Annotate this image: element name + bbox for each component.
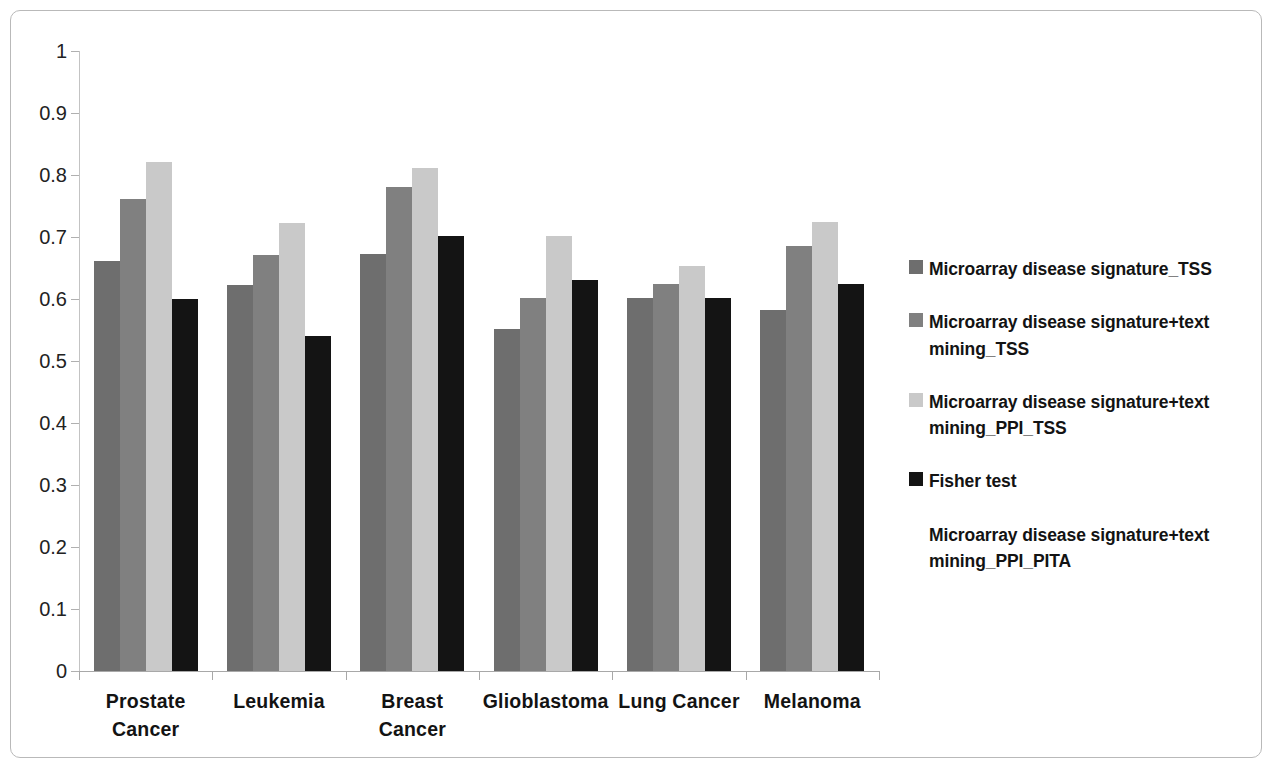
y-tick-label: 0.9 — [39, 103, 67, 123]
bar — [546, 236, 572, 671]
x-tick-mark — [746, 671, 747, 680]
bar — [572, 280, 598, 671]
y-tick-mark — [71, 609, 79, 610]
x-axis-label: Glioblastoma — [479, 687, 612, 715]
bar — [705, 298, 731, 671]
bar-group — [494, 51, 598, 671]
y-tick-mark — [71, 485, 79, 486]
y-tick-mark — [71, 175, 79, 176]
figure-frame: 00.10.20.30.40.50.60.70.80.91 Prostate C… — [10, 10, 1262, 758]
y-tick-label: 0.8 — [39, 165, 67, 185]
x-tick-mark — [212, 671, 213, 680]
bar — [412, 168, 438, 671]
legend-swatch-icon — [909, 313, 923, 327]
y-tick-label: 0.1 — [39, 599, 67, 619]
bar — [227, 285, 253, 671]
y-tick-mark — [71, 299, 79, 300]
y-tick-mark — [71, 361, 79, 362]
bar-group — [760, 51, 864, 671]
x-tick-mark — [612, 671, 613, 680]
y-tick-label: 0.6 — [39, 289, 67, 309]
bar — [838, 284, 864, 671]
y-tick-mark — [71, 51, 79, 52]
y-tick-label: 0.2 — [39, 537, 67, 557]
bar — [627, 298, 653, 671]
x-axis-label: Leukemia — [212, 687, 345, 715]
bar — [94, 261, 120, 671]
legend-swatch-icon — [909, 260, 923, 274]
chart-plot-area: 00.10.20.30.40.50.60.70.80.91 Prostate C… — [79, 51, 879, 671]
y-tick-mark — [71, 237, 79, 238]
y-tick-label: 0.4 — [39, 413, 67, 433]
legend-item[interactable]: Microarray disease signature_TSS — [909, 256, 1249, 282]
y-tick-mark — [71, 423, 79, 424]
bar-group — [627, 51, 731, 671]
bar — [653, 284, 679, 671]
legend-label: Microarray disease signature+text mining… — [929, 522, 1249, 575]
x-tick-mark — [79, 671, 80, 680]
bar — [520, 298, 546, 671]
bar-group — [227, 51, 331, 671]
bar — [172, 299, 198, 671]
bar — [120, 199, 146, 671]
legend-swatch-icon — [909, 526, 923, 540]
bar-group — [94, 51, 198, 671]
y-tick-mark — [71, 547, 79, 548]
legend-label: Fisher test — [929, 468, 1016, 494]
bar — [360, 254, 386, 671]
y-tick-label: 1 — [56, 41, 67, 61]
bar — [146, 162, 172, 671]
legend-swatch-icon — [909, 393, 923, 407]
x-axis-label: Breast Cancer — [346, 687, 479, 744]
bar — [253, 255, 279, 671]
legend-item[interactable]: Microarray disease signature+text mining… — [909, 389, 1249, 442]
bar — [679, 266, 705, 671]
legend-item[interactable]: Fisher test — [909, 468, 1249, 494]
bar — [812, 222, 838, 671]
chart-legend: Microarray disease signature_TSSMicroarr… — [909, 256, 1249, 601]
bar — [760, 310, 786, 671]
x-axis-label: Melanoma — [746, 687, 879, 715]
bar — [494, 329, 520, 671]
y-tick-label: 0 — [56, 661, 67, 681]
y-axis-line — [79, 51, 80, 671]
y-tick-mark — [71, 113, 79, 114]
bar — [786, 246, 812, 671]
bar-group — [360, 51, 464, 671]
legend-swatch-icon — [909, 472, 923, 486]
bar — [305, 336, 331, 671]
x-axis-label: Prostate Cancer — [79, 687, 212, 744]
x-tick-mark — [346, 671, 347, 680]
y-tick-mark — [71, 671, 79, 672]
bar — [279, 223, 305, 671]
bar — [386, 187, 412, 671]
legend-label: Microarray disease signature+text mining… — [929, 309, 1249, 362]
y-tick-label: 0.5 — [39, 351, 67, 371]
x-tick-mark — [479, 671, 480, 680]
legend-item[interactable]: Microarray disease signature+text mining… — [909, 309, 1249, 362]
y-tick-label: 0.3 — [39, 475, 67, 495]
legend-label: Microarray disease signature_TSS — [929, 256, 1212, 282]
y-tick-label: 0.7 — [39, 227, 67, 247]
legend-label: Microarray disease signature+text mining… — [929, 389, 1249, 442]
legend-item[interactable]: Microarray disease signature+text mining… — [909, 522, 1249, 575]
bar — [438, 236, 464, 671]
x-tick-mark — [879, 671, 880, 680]
x-axis-label: Lung Cancer — [612, 687, 745, 715]
